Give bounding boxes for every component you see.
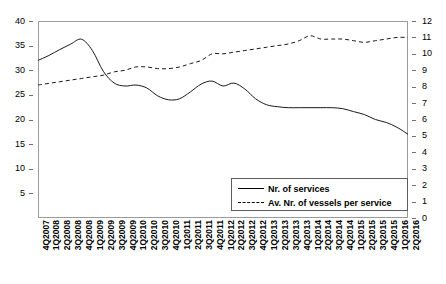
x-tick-1Q2015: 1Q2015 bbox=[357, 220, 366, 250]
y-tickmark-right-10 bbox=[412, 54, 416, 55]
legend-label-services: Nr. of services bbox=[266, 184, 330, 194]
x-tick-2Q2010: 2Q2010 bbox=[150, 220, 159, 250]
y-axis-left: 510152025303540 bbox=[0, 0, 33, 284]
x-tick-1Q2012: 1Q2012 bbox=[227, 220, 236, 250]
x-tick-4Q2013: 4Q2013 bbox=[303, 220, 312, 250]
y-tick-right-11: 11 bbox=[422, 33, 431, 42]
y-tick-right-0: 0 bbox=[422, 214, 427, 223]
x-tick-1Q2011: 1Q2011 bbox=[183, 220, 192, 250]
legend-item-vessels: Av. Nr. of vessels per service bbox=[236, 196, 403, 210]
x-tick-1Q2008: 1Q2008 bbox=[52, 220, 61, 250]
x-tick-4Q2014: 4Q2014 bbox=[346, 220, 355, 250]
x-tick-2Q2016: 2Q2016 bbox=[412, 220, 421, 250]
y-tick-right-7: 7 bbox=[422, 99, 427, 108]
legend-label-vessels: Av. Nr. of vessels per service bbox=[266, 198, 392, 208]
x-tick-4Q2012: 4Q2012 bbox=[259, 220, 268, 250]
x-tick-1Q2016: 1Q2016 bbox=[401, 220, 410, 250]
x-tick-1Q2010: 1Q2010 bbox=[139, 220, 148, 250]
legend-item-services: Nr. of services bbox=[236, 182, 403, 196]
y-tickmark-left-25 bbox=[29, 95, 33, 96]
y-tickmark-right-0 bbox=[412, 218, 416, 219]
y-tickmark-right-11 bbox=[412, 37, 416, 38]
y-tickmark-right-9 bbox=[412, 70, 416, 71]
x-tick-3Q2008: 3Q2008 bbox=[74, 220, 83, 250]
y-tickmark-right-4 bbox=[412, 152, 416, 153]
legend-line-dashed-icon bbox=[236, 198, 266, 208]
x-tick-1Q2014: 1Q2014 bbox=[314, 220, 323, 250]
y-tick-left-35: 35 bbox=[15, 41, 25, 50]
chart-legend: Nr. of services Av. Nr. of vessels per s… bbox=[231, 178, 408, 211]
x-tick-2Q2013: 2Q2013 bbox=[281, 220, 290, 250]
y-tickmark-right-2 bbox=[412, 185, 416, 186]
y-tick-right-2: 2 bbox=[422, 181, 427, 190]
x-tick-3Q2013: 3Q2013 bbox=[292, 220, 301, 250]
x-tick-3Q2012: 3Q2012 bbox=[248, 220, 257, 250]
x-tick-4Q2007: 4Q2007 bbox=[42, 220, 51, 250]
y-tick-right-5: 5 bbox=[422, 131, 427, 140]
y-tickmark-left-10 bbox=[29, 169, 33, 170]
y-tickmark-left-30 bbox=[29, 70, 33, 71]
y-tickmark-right-1 bbox=[412, 202, 416, 203]
chart-container: 510152025303540 0123456789101112 4Q20071… bbox=[0, 0, 446, 284]
series-line-dashed bbox=[38, 36, 408, 85]
x-tick-2Q2012: 2Q2012 bbox=[237, 220, 246, 250]
x-tick-4Q2011: 4Q2011 bbox=[216, 220, 225, 250]
x-tick-3Q2009: 3Q2009 bbox=[118, 220, 127, 250]
y-tick-left-25: 25 bbox=[15, 90, 25, 99]
y-tickmark-right-12 bbox=[412, 21, 416, 22]
y-tickmark-right-5 bbox=[412, 136, 416, 137]
y-tick-left-40: 40 bbox=[15, 17, 25, 26]
y-tick-right-3: 3 bbox=[422, 164, 427, 173]
x-tick-1Q2013: 1Q2013 bbox=[270, 220, 279, 250]
x-tick-2Q2011: 2Q2011 bbox=[194, 220, 203, 250]
y-tick-left-20: 20 bbox=[15, 115, 25, 124]
y-tick-right-12: 12 bbox=[422, 17, 432, 26]
x-tick-2Q2014: 2Q2014 bbox=[324, 220, 333, 250]
y-tick-right-6: 6 bbox=[422, 115, 427, 124]
x-tick-2Q2008: 2Q2008 bbox=[63, 220, 72, 250]
y-tick-right-4: 4 bbox=[422, 148, 427, 157]
legend-line-solid-icon bbox=[236, 184, 266, 194]
x-tick-1Q2009: 1Q2009 bbox=[96, 220, 105, 250]
x-tick-4Q2008: 4Q2008 bbox=[85, 220, 94, 250]
y-tick-right-1: 1 bbox=[422, 197, 427, 206]
y-tick-right-8: 8 bbox=[422, 82, 427, 91]
y-tick-right-10: 10 bbox=[422, 49, 432, 58]
y-tick-left-15: 15 bbox=[15, 140, 25, 149]
x-tick-4Q2010: 4Q2010 bbox=[172, 220, 181, 250]
x-tick-3Q2014: 3Q2014 bbox=[335, 220, 344, 250]
x-tick-3Q2015: 3Q2015 bbox=[379, 220, 388, 250]
x-tick-4Q2009: 4Q2009 bbox=[129, 220, 138, 250]
y-tickmark-left-35 bbox=[29, 46, 33, 47]
x-tick-3Q2011: 3Q2011 bbox=[205, 220, 214, 250]
y-tickmark-left-15 bbox=[29, 144, 33, 145]
y-tickmark-left-40 bbox=[29, 21, 33, 22]
y-tickmark-left-20 bbox=[29, 120, 33, 121]
x-axis-labels: 4Q20071Q20082Q20083Q20084Q20081Q20092Q20… bbox=[38, 220, 408, 284]
x-tick-2Q2009: 2Q2009 bbox=[107, 220, 116, 250]
y-tick-right-9: 9 bbox=[422, 66, 427, 75]
x-tick-3Q2010: 3Q2010 bbox=[161, 220, 170, 250]
y-tickmark-right-8 bbox=[412, 87, 416, 88]
y-tick-left-5: 5 bbox=[20, 189, 25, 198]
x-tick-4Q2015: 4Q2015 bbox=[390, 220, 399, 250]
y-tickmark-left-5 bbox=[29, 193, 33, 194]
y-tickmark-right-6 bbox=[412, 120, 416, 121]
y-tick-left-30: 30 bbox=[15, 66, 25, 75]
y-tickmark-right-3 bbox=[412, 169, 416, 170]
y-tick-left-10: 10 bbox=[15, 164, 25, 173]
y-tickmark-right-7 bbox=[412, 103, 416, 104]
x-tick-2Q2015: 2Q2015 bbox=[368, 220, 377, 250]
